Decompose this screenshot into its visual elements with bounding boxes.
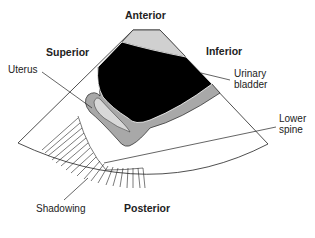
label-inferior: Inferior (206, 46, 242, 57)
label-urinary: Urinary (234, 68, 266, 79)
label-bladder: bladder (234, 79, 267, 90)
label-posterior: Posterior (124, 203, 170, 214)
label-lower: Lower (279, 113, 306, 124)
label-superior: Superior (46, 47, 89, 58)
ultrasound-diagram: Anterior Superior Inferior Uterus Urinar… (0, 0, 315, 238)
label-uterus: Uterus (8, 64, 37, 75)
label-anterior: Anterior (125, 10, 166, 21)
shadowing-leader (64, 178, 88, 200)
label-shadowing: Shadowing (36, 203, 85, 214)
label-spine: spine (279, 124, 303, 135)
